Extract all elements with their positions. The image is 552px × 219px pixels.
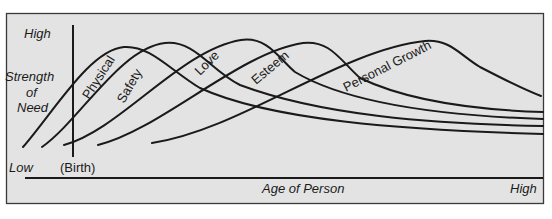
- y-axis-high-label: High: [24, 26, 51, 41]
- x-axis-label: Age of Person: [261, 181, 344, 196]
- x-axis-high-label: High: [510, 181, 537, 196]
- y-axis-label-line2: of: [26, 85, 38, 100]
- need-strength-diagram: High Strength of Need Low (Birth) Age of…: [0, 0, 552, 219]
- y-axis-low-label: Low: [9, 160, 34, 175]
- diagram-frame: [7, 14, 544, 204]
- birth-label: (Birth): [60, 160, 95, 175]
- y-axis-label-line3: Need: [17, 100, 49, 115]
- y-axis-label-line1: Strength: [5, 69, 54, 84]
